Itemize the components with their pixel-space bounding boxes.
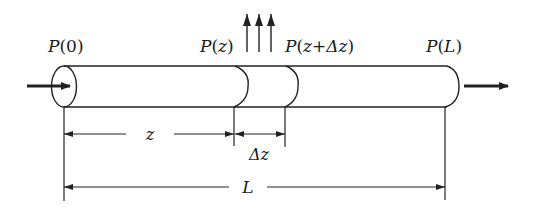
dimension-z-label: z (145, 125, 155, 144)
label-p0: P(0) (47, 36, 84, 56)
section-zdz-arc (285, 66, 298, 107)
label-pzdz: P(z+Δz) (284, 36, 354, 56)
pipe-body (52, 66, 460, 107)
section-z-arc (234, 66, 248, 107)
label-pL: P(L) (425, 36, 462, 56)
dimension-L-label: L (241, 177, 253, 197)
outlet-end (445, 66, 459, 107)
loss-arrows-icon (247, 14, 271, 52)
dimension-dz-label: Δz (248, 145, 270, 164)
label-pz: P(z) (199, 36, 234, 56)
pipe-diagram: P(0) P(z) P(z+Δz) P(L) z Δz L (0, 0, 533, 218)
